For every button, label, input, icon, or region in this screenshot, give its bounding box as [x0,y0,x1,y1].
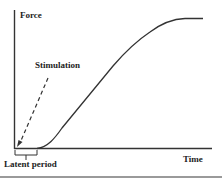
diagram-canvas [0,0,222,180]
stimulation-label: Stimulation [35,61,80,70]
muscle-twitch-diagram: Force Stimulation Latent period Time [0,0,222,180]
y-axis-label: Force [20,11,42,20]
x-axis-label: Time [183,155,203,164]
stimulation-dashed-arrow [20,78,48,143]
latent-period-bracket [15,150,37,155]
bottom-rule [0,176,222,178]
latent-period-label: Latent period [4,160,57,169]
arrowhead-icon [17,140,23,147]
force-curve [37,19,203,149]
